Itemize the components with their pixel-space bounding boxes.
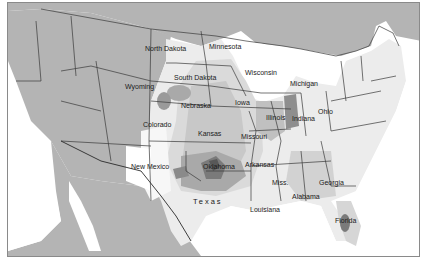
label-michigan: Michigan (290, 80, 318, 87)
label-louisiana: Louisiana (250, 206, 280, 213)
label-alabama: Alabama (292, 193, 320, 200)
label-miss: Miss. (272, 179, 288, 186)
label-new-mexico: New Mexico (131, 163, 169, 170)
label-wyoming: Wyoming (125, 83, 154, 90)
label-illinois: Illinois (266, 114, 285, 121)
label-south-dakota: South Dakota (174, 74, 216, 81)
label-oklahoma: Oklahoma (203, 163, 235, 170)
label-ohio: Ohio (318, 108, 333, 115)
label-texas: Texas (193, 198, 223, 206)
map-frame: North Dakota Minnesota South Dakota Wisc… (7, 2, 420, 257)
label-arkansas: Arkansas (245, 161, 274, 168)
label-wisconsin: Wisconsin (245, 69, 277, 76)
label-iowa: Iowa (235, 99, 250, 106)
label-indiana: Indiana (292, 115, 315, 122)
label-missouri: Missouri (241, 133, 267, 140)
label-florida: Florida (335, 217, 356, 224)
label-north-dakota: North Dakota (145, 45, 186, 52)
label-colorado: Colorado (143, 121, 171, 128)
label-minnesota: Minnesota (209, 43, 241, 50)
label-kansas: Kansas (198, 130, 221, 137)
label-nebraska: Nebraska (181, 102, 211, 109)
label-georgia: Georgia (319, 179, 344, 186)
